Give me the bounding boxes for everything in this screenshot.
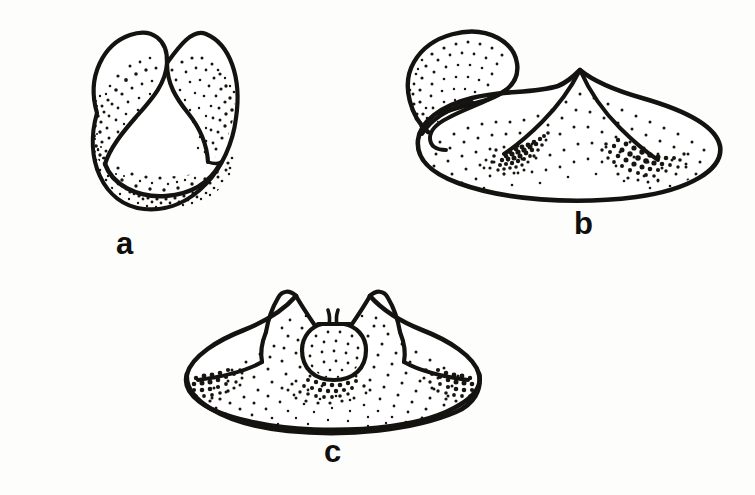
figure-a-label: a bbox=[116, 228, 133, 259]
figure-b-label: b bbox=[574, 208, 593, 239]
illustration-plate: a bbox=[0, 0, 755, 495]
figure-c-horn-cleft-left bbox=[328, 310, 330, 324]
figure-b-drawing bbox=[392, 22, 727, 222]
figure-c-label: c bbox=[324, 436, 341, 467]
figure-a-right-fold-connector bbox=[208, 162, 221, 164]
figure-b: b bbox=[392, 22, 727, 222]
figure-c-drawing bbox=[178, 278, 488, 453]
figure-a: a bbox=[40, 18, 255, 223]
figure-c: c bbox=[178, 278, 488, 453]
figure-c-horn-cleft-right bbox=[336, 310, 338, 324]
figure-a-drawing bbox=[40, 18, 255, 223]
